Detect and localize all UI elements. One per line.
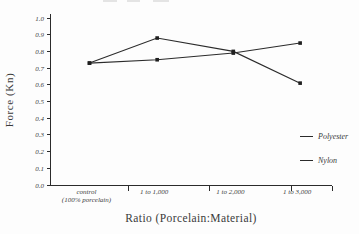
chart-plot-area: 0.00.10.20.30.40.50.60.70.80.91.0control… <box>0 0 359 234</box>
y-tick-label: 0.2 <box>35 148 44 156</box>
data-point-marker <box>155 58 159 62</box>
y-axis-title: Force (Kn) <box>3 30 17 170</box>
series-line <box>89 38 300 83</box>
legend-entry-polyester: Polyester <box>300 132 348 141</box>
nylon-line-swatch <box>300 160 313 161</box>
data-point-marker <box>155 36 159 40</box>
y-tick-label: 0.6 <box>35 81 44 89</box>
data-point-marker <box>88 61 92 65</box>
y-tick-label: 0.3 <box>35 131 44 139</box>
y-tick-label: 0.5 <box>35 98 44 106</box>
y-tick-label: 0.0 <box>35 182 44 190</box>
series-polyester <box>88 36 302 85</box>
data-point-marker <box>298 81 302 85</box>
x-category-label: (100% porcelain) <box>62 196 112 204</box>
axes <box>47 14 333 191</box>
x-category-label: 1 to 1,000 <box>140 188 169 196</box>
y-tick-label: 0.8 <box>35 48 44 56</box>
y-tick-label: 0.1 <box>35 165 44 173</box>
legend-label-nylon: Nylon <box>318 156 337 165</box>
y-tick-label: 1.0 <box>35 15 44 23</box>
data-point-marker <box>232 51 236 55</box>
y-tick-label: 0.9 <box>35 31 44 39</box>
polyester-line-swatch <box>300 136 313 137</box>
data-point-marker <box>298 41 302 45</box>
y-tick-label: 0.7 <box>35 65 44 73</box>
x-axis-title: Ratio (Porcelain:Material) <box>50 212 332 224</box>
legend-label-polyester: Polyester <box>318 132 348 141</box>
x-category-label: control <box>76 188 96 196</box>
line-chart-figure: 0.00.10.20.30.40.50.60.70.80.91.0control… <box>0 0 359 234</box>
legend-entry-nylon: Nylon <box>300 156 337 165</box>
x-category-label: 1 to 3,000 <box>283 188 312 196</box>
y-tick-label: 0.4 <box>35 115 44 123</box>
x-category-label: 1 to 2,000 <box>216 188 245 196</box>
series-line <box>89 43 300 63</box>
